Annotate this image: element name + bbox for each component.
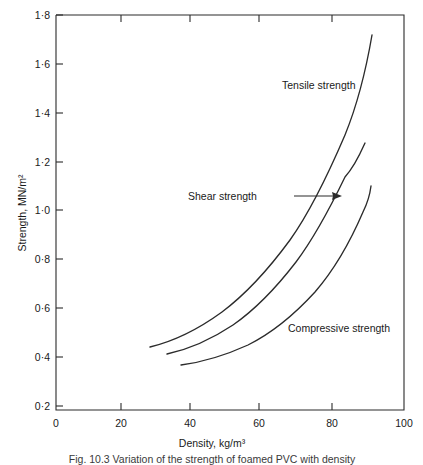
- y-tick-label-0-6: 0·6: [35, 302, 50, 314]
- x-tick-label-80: 80: [326, 417, 338, 429]
- y-tick-label-1-6: 1·6: [35, 58, 50, 70]
- y-tick-label-1-2: 1·2: [35, 156, 50, 168]
- y-axis-ticks: [56, 15, 63, 406]
- y-tick-label-1-8: 1·8: [35, 9, 50, 21]
- x-axis-ticks: [121, 403, 332, 410]
- plot-frame: [56, 15, 404, 410]
- y-tick-label-0-8: 0·8: [35, 253, 50, 265]
- x-axis-title: Density, kg/m³: [179, 437, 246, 449]
- y-tick-label-1-0: 1·0: [35, 204, 50, 216]
- x-tick-label-100: 100: [395, 417, 413, 429]
- x-axis-top-ticks: [121, 15, 332, 22]
- figure-container: 1·8 1·6 1·4 1·2 1·0 0·8 0·6 0·4 0·2 0: [0, 0, 423, 465]
- y-axis-title: Strength, MN/m²: [16, 174, 28, 252]
- y-axis-tick-labels: 1·8 1·6 1·4 1·2 1·0 0·8 0·6 0·4 0·2: [35, 9, 50, 412]
- strength-vs-density-chart: 1·8 1·6 1·4 1·2 1·0 0·8 0·6 0·4 0·2 0: [0, 0, 423, 465]
- y-tick-label-0-4: 0·4: [35, 351, 50, 363]
- x-tick-label-60: 60: [253, 417, 265, 429]
- label-shear-strength: Shear strength: [188, 190, 257, 202]
- x-tick-label-20: 20: [115, 417, 127, 429]
- y-tick-label-1-4: 1·4: [35, 107, 50, 119]
- label-tensile-strength: Tensile strength: [282, 79, 356, 91]
- x-axis-tick-labels: 0 20 40 60 80 100: [53, 417, 413, 429]
- x-tick-label-40: 40: [184, 417, 196, 429]
- y-tick-label-0-2: 0·2: [35, 400, 50, 412]
- label-compressive-strength: Compressive strength: [288, 322, 390, 334]
- x-tick-label-0: 0: [53, 417, 59, 429]
- figure-caption: Fig. 10.3 Variation of the strength of f…: [69, 453, 356, 465]
